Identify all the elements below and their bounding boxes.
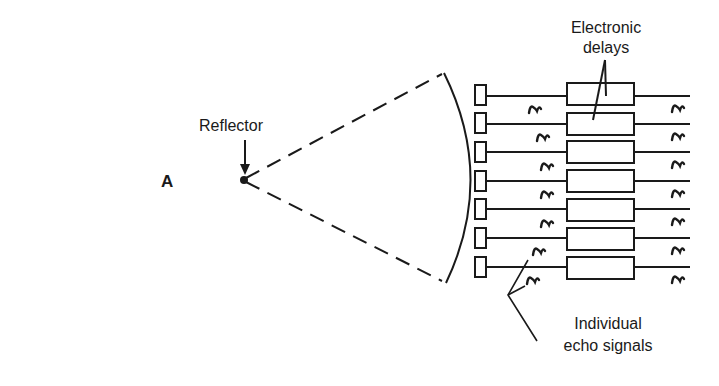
- wave-icon: [672, 219, 684, 225]
- panel-letter: A: [161, 172, 173, 192]
- electronic-delays-label: Electronic delays: [556, 18, 656, 58]
- wave-icon: [541, 192, 553, 198]
- delays-pointer: [605, 60, 606, 96]
- delay-box: [567, 113, 634, 135]
- echo-label-line1: Individual: [553, 313, 663, 335]
- reflector-arrowhead: [240, 164, 250, 175]
- wave-icon: [672, 248, 684, 254]
- wave-icon: [527, 278, 539, 284]
- echo-pointer: [508, 260, 537, 341]
- transducer-element: [475, 257, 486, 277]
- delay-box: [567, 257, 634, 279]
- delays-label-line1: Electronic: [556, 18, 656, 38]
- beam-edge-upper: [246, 74, 442, 178]
- delay-box: [567, 228, 634, 250]
- transducer-element: [475, 228, 486, 248]
- transducer-element: [475, 171, 486, 191]
- echo-waves-incoming: [527, 107, 553, 284]
- echo-signals-label: Individual echo signals: [553, 313, 663, 357]
- wave-icon: [672, 191, 684, 197]
- delays-pointer: [593, 60, 605, 120]
- wave-icon: [541, 164, 553, 170]
- delay-box: [567, 199, 634, 221]
- delay-box: [567, 141, 634, 163]
- echo-waves-aligned: [672, 106, 684, 283]
- wave-icon: [533, 249, 545, 255]
- wave-icon: [672, 277, 684, 283]
- array-rows: [475, 83, 690, 279]
- wave-icon: [672, 106, 684, 112]
- transducer-element: [475, 113, 486, 133]
- reflector-label: Reflector: [199, 117, 263, 135]
- delays-label-line2: delays: [556, 38, 656, 58]
- wave-icon: [537, 135, 549, 141]
- delay-box: [567, 170, 634, 192]
- transducer-element: [475, 142, 486, 162]
- transducer-element: [475, 199, 486, 219]
- beam-edge-lower: [246, 182, 442, 281]
- transducer-element: [475, 85, 486, 105]
- wave-icon: [541, 221, 553, 227]
- wave-icon: [529, 107, 541, 113]
- wave-icon: [672, 134, 684, 140]
- wave-icon: [672, 162, 684, 168]
- wavefront-arc: [444, 73, 471, 283]
- echo-label-line2: echo signals: [553, 335, 663, 357]
